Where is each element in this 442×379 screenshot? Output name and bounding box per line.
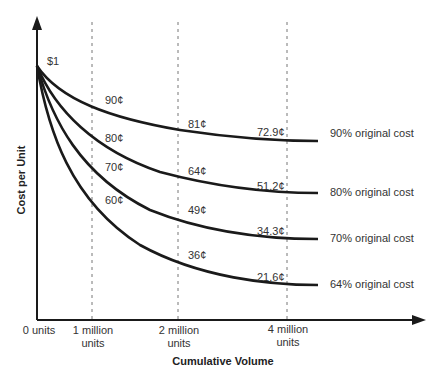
y-axis-title: Cost per Unit <box>15 145 27 214</box>
x-axis-title: Cumulative Volume <box>172 355 273 367</box>
label-80-p1: 80¢ <box>105 132 123 144</box>
label-90-p1: 90¢ <box>105 94 123 106</box>
legend-90: 90% original cost <box>330 127 414 139</box>
x-tick-2-line1: 2 million <box>159 324 199 336</box>
label-80-end: 51.2¢ <box>257 180 285 192</box>
x-axis-arrow-icon <box>412 315 426 325</box>
learning-curve-chart: $1 90¢ 81¢ 72.9¢ 90% original cost 80¢ 6… <box>0 0 442 379</box>
curves <box>37 66 318 285</box>
legend-80: 80% original cost <box>330 186 414 198</box>
label-64-p1: 60¢ <box>105 194 123 206</box>
label-70-end: 34.3¢ <box>257 225 285 237</box>
start-label: $1 <box>47 55 59 67</box>
label-90-p2: 81¢ <box>188 118 206 130</box>
label-64-end: 21.6¢ <box>257 271 285 283</box>
label-70-p1: 70¢ <box>105 161 123 173</box>
x-tick-2-line2: units <box>167 337 191 349</box>
x-tick-0: 0 units <box>23 324 56 336</box>
legend-64: 64% original cost <box>330 278 414 290</box>
legend-70: 70% original cost <box>330 232 414 244</box>
label-80-p2: 64¢ <box>188 165 206 177</box>
label-70-p2: 49¢ <box>188 204 206 216</box>
x-tick-4-line1: 4 million <box>268 323 308 335</box>
x-tick-1-line2: units <box>81 337 105 349</box>
x-tick-1-line1: 1 million <box>73 324 113 336</box>
label-90-end: 72.9¢ <box>257 126 285 138</box>
y-axis-arrow-icon <box>32 16 42 30</box>
x-tick-4-line2: units <box>276 336 300 348</box>
x-tick-labels: 0 units 1 million units 2 million units … <box>23 323 308 349</box>
label-64-p2: 36¢ <box>188 249 206 261</box>
